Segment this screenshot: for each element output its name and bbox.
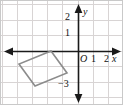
coordinate-plane-figure: 2 1 −3 1 2 O x y: [0, 0, 123, 105]
y-tick-label-neg3: −3: [58, 79, 69, 89]
x-tick-label-2: 2: [104, 54, 109, 64]
x-axis-arrow-left: [4, 48, 13, 56]
origin-label: O: [80, 54, 87, 64]
y-axis-name: y: [83, 7, 87, 17]
y-tick-label-1: 1: [65, 28, 70, 38]
y-tick-label-2: 2: [65, 12, 70, 22]
y-axis-arrow-up: [75, 4, 83, 13]
x-tick-label-1: 1: [91, 54, 96, 64]
x-axis-name: x: [112, 54, 116, 64]
y-axis-arrow-down: [75, 94, 83, 103]
